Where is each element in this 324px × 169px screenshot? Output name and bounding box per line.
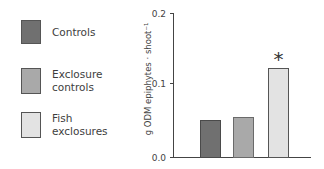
bar-controls [201,121,221,158]
bar-exclosure-controls [234,118,254,158]
y-tick-label-0.0: 0.0 [152,153,167,163]
y-tick-label-0.2: 0.2 [152,9,166,19]
y-axis-label: g ODM epiphytes · shoot⁻¹ [143,23,153,136]
bar-chart: 0.2 0.1 0.0 g ODM epiphytes · shoot⁻¹ * [0,0,324,169]
y-tick-label-0.1: 0.1 [152,79,166,89]
significance-asterisk: * [274,47,284,71]
bar-fish-exclosures [269,69,289,158]
